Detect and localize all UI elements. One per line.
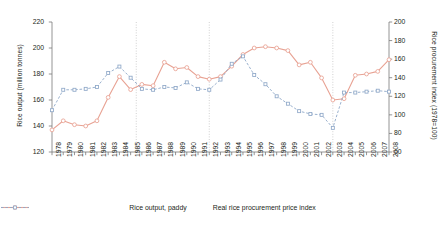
x-axis-tick-label: 1986 [145, 142, 152, 157]
legend-label: Real rice procurement price index [213, 204, 316, 211]
data-point [129, 88, 133, 92]
x-axis-tick-label: 2008 [392, 142, 399, 157]
data-point [50, 128, 54, 132]
legend-swatch-line-square-icon [0, 204, 30, 211]
legend-item-0[interactable]: Rice output, paddy [129, 204, 186, 211]
data-point [241, 55, 244, 58]
data-point [264, 83, 267, 86]
x-axis-tick-label: 1991 [201, 142, 208, 157]
data-point [219, 78, 222, 81]
x-axis-tick-label: 1999 [291, 142, 298, 157]
data-point [162, 60, 166, 64]
chart-legend: Rice output, paddyReal rice procurement … [0, 204, 445, 211]
x-axis-tick-label: 2004 [347, 142, 354, 157]
data-point [95, 119, 99, 123]
data-point [84, 87, 87, 90]
data-point [298, 110, 301, 113]
data-point [73, 123, 77, 127]
data-point [95, 86, 98, 89]
data-point [197, 87, 200, 90]
data-point [365, 90, 368, 93]
y-axis-left-tick-label: 140 [22, 122, 44, 129]
data-point [174, 67, 178, 71]
data-point [286, 102, 289, 105]
data-point [140, 83, 144, 87]
series-line-1 [52, 56, 389, 128]
data-point [140, 87, 143, 90]
data-point [208, 88, 211, 91]
data-point [185, 81, 188, 84]
y-axis-left-tick-label: 180 [22, 70, 44, 77]
data-point [185, 66, 189, 70]
data-point [107, 72, 110, 75]
x-axis-tick-label: 2007 [381, 142, 388, 157]
y-axis-right-tick-label: 140 [394, 74, 416, 81]
data-point [331, 98, 335, 102]
x-axis-tick-label: 1989 [179, 142, 186, 157]
data-point [387, 58, 391, 62]
data-point [354, 91, 357, 94]
data-point [253, 73, 256, 76]
legend-label: Rice output, paddy [129, 204, 186, 211]
y-axis-left-tick-label: 200 [22, 44, 44, 51]
x-axis-tick-label: 1994 [235, 142, 242, 157]
x-axis-tick-label: 2003 [336, 142, 343, 157]
data-point [61, 119, 65, 123]
x-axis-tick-label: 1990 [190, 142, 197, 157]
x-axis-tick-label: 1988 [167, 142, 174, 157]
y-axis-right-tick-label: 80 [394, 129, 416, 136]
x-axis-tick-label: 2005 [358, 142, 365, 157]
data-point [343, 91, 346, 94]
x-axis-tick-label: 2001 [313, 142, 320, 157]
data-point [152, 88, 155, 91]
x-axis-tick-label: 1984 [122, 142, 129, 157]
y-axis-left-tick-label: 120 [22, 148, 44, 155]
data-point [308, 60, 312, 64]
y-axis-right-tick-label: 180 [394, 37, 416, 44]
data-point [129, 76, 132, 79]
y-axis-right-tick-label: 100 [394, 111, 416, 118]
y-axis-right-tick-label: 120 [394, 92, 416, 99]
x-axis-tick-label: 1981 [89, 142, 96, 157]
x-axis-tick-label: 1993 [224, 142, 231, 157]
y-axis-left-tick-label: 160 [22, 96, 44, 103]
data-point [320, 113, 323, 116]
data-point [106, 96, 110, 100]
data-point [252, 46, 256, 50]
x-axis-tick-label: 2000 [302, 142, 309, 157]
chart-container: Rice output (million tonnes) Rice procur… [0, 0, 445, 231]
data-point [118, 65, 121, 68]
y-axis-right-tick-label: 160 [394, 55, 416, 62]
data-point [331, 126, 334, 129]
y-axis-left-tick-label: 220 [22, 18, 44, 25]
x-axis-tick-label: 2006 [370, 142, 377, 157]
data-point [151, 84, 155, 88]
legend-item-1[interactable]: Real rice procurement price index [213, 204, 316, 211]
data-point [62, 88, 65, 91]
data-point [297, 63, 301, 67]
data-point [174, 86, 177, 89]
data-point [353, 73, 357, 77]
data-point [73, 88, 76, 91]
x-axis-tick-label: 1996 [257, 142, 264, 157]
data-point [275, 46, 279, 50]
data-point [286, 49, 290, 53]
x-axis-tick-label: 1997 [268, 142, 275, 157]
data-point [275, 95, 278, 98]
x-axis-tick-label: 1995 [246, 142, 253, 157]
data-point [376, 89, 379, 92]
data-point [320, 76, 324, 80]
plot-area [0, 0, 445, 231]
data-point [264, 45, 268, 49]
data-point [365, 72, 369, 76]
data-point [342, 97, 346, 101]
data-point [309, 112, 312, 115]
x-axis-tick-label: 1987 [156, 142, 163, 157]
x-axis-tick-label: 1982 [100, 142, 107, 157]
data-point [388, 90, 391, 93]
data-point [84, 124, 88, 128]
data-point [196, 75, 200, 79]
data-point [376, 70, 380, 74]
data-point [163, 86, 166, 89]
x-axis-tick-label: 1992 [212, 142, 219, 157]
